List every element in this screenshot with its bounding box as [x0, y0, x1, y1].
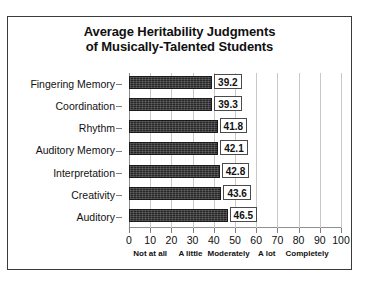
category-label: Fingering Memory — [30, 73, 115, 95]
bar — [129, 142, 218, 155]
category-label: Auditory Memory — [36, 139, 115, 161]
scale-anchor: Not at all — [133, 249, 167, 258]
x-tick-label: 30 — [187, 234, 199, 246]
category-label: Creativity — [71, 184, 115, 206]
category-label: Interpretation — [53, 162, 115, 184]
bar-row: 46.5 — [129, 206, 341, 228]
x-tick-label: 10 — [144, 234, 156, 246]
chart-title-line-1: Average Heritability Judgments — [8, 24, 351, 39]
bar — [129, 187, 221, 200]
x-tick-80 — [299, 228, 300, 233]
x-tick-90 — [320, 228, 321, 233]
chart-title-line-2: of Musically-Talented Students — [8, 39, 351, 54]
scale-anchor-labels: Not at allA littleModeratelyA lotComplet… — [129, 249, 341, 261]
x-tick-label: 50 — [229, 234, 241, 246]
scale-anchor: A little — [178, 249, 202, 258]
x-tick-label: 0 — [126, 234, 132, 246]
chart-title: Average Heritability Judgments of Musica… — [8, 24, 351, 54]
x-tick-60 — [256, 228, 257, 233]
category-tick — [116, 84, 122, 85]
x-tick-10 — [150, 228, 151, 233]
bar — [129, 209, 228, 222]
x-tick-50 — [235, 228, 236, 233]
plot-area: 39.239.341.842.142.843.646.5 — [129, 73, 341, 228]
bar-row: 42.8 — [129, 162, 341, 184]
category-label: Coordination — [55, 95, 115, 117]
x-tick-label: 20 — [166, 234, 178, 246]
x-tick-label: 60 — [250, 234, 262, 246]
x-tick-label: 70 — [272, 234, 284, 246]
category-axis: Fingering MemoryCoordinationRhythmAudito… — [8, 73, 122, 228]
bar-row: 39.2 — [129, 73, 341, 95]
x-tick-30 — [193, 228, 194, 233]
bar — [129, 165, 220, 178]
category-tick — [116, 195, 122, 196]
category-label: Auditory — [76, 206, 115, 228]
x-tick-label: 100 — [332, 234, 350, 246]
x-tick-label: 90 — [314, 234, 326, 246]
bar-value-label: 42.1 — [220, 140, 247, 155]
bar — [129, 98, 212, 111]
bar — [129, 76, 212, 89]
x-tick-100 — [341, 228, 342, 233]
bar-row: 41.8 — [129, 117, 341, 139]
category-tick — [116, 106, 122, 107]
category-tick — [116, 151, 122, 152]
bar-value-label: 46.5 — [230, 207, 257, 222]
category-label: Rhythm — [79, 117, 115, 139]
bar-value-label: 39.3 — [214, 96, 241, 111]
bar-value-label: 42.8 — [222, 163, 249, 178]
x-tick-40 — [214, 228, 215, 233]
x-tick-0 — [129, 228, 130, 233]
x-tick-70 — [277, 228, 278, 233]
scale-anchor: Moderately — [208, 249, 250, 258]
scale-anchor: Completely — [286, 249, 329, 258]
category-tick — [116, 173, 122, 174]
bar — [129, 120, 218, 133]
gridline-100 — [341, 73, 342, 228]
bar-row: 43.6 — [129, 184, 341, 206]
category-tick — [116, 217, 122, 218]
x-tick-20 — [171, 228, 172, 233]
category-tick — [116, 128, 122, 129]
bar-row: 39.3 — [129, 95, 341, 117]
bar-value-label: 39.2 — [214, 74, 241, 89]
bar-value-label: 41.8 — [220, 118, 247, 133]
bar-row: 42.1 — [129, 139, 341, 161]
chart-figure: Average Heritability Judgments of Musica… — [7, 16, 352, 270]
x-axis-tick-labels: 0102030405060708090100 — [129, 234, 341, 248]
x-tick-label: 80 — [293, 234, 305, 246]
x-tick-label: 40 — [208, 234, 220, 246]
bar-value-label: 43.6 — [223, 185, 250, 200]
scale-anchor: A lot — [258, 249, 275, 258]
